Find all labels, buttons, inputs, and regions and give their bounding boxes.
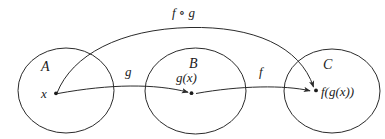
- function-composition-diagram: A B C x g(x) f(g(x)) g f f ∘ g: [0, 0, 385, 139]
- set-label-b: B: [189, 57, 198, 71]
- map-label-f-compose-g: f ∘ g: [172, 6, 195, 19]
- element-dot-x: [54, 91, 58, 95]
- element-label-x: x: [41, 87, 47, 100]
- set-label-a: A: [41, 60, 50, 74]
- map-label-f: f: [259, 65, 263, 78]
- map-arrow-f: [196, 87, 310, 94]
- element-label-fgx: f(g(x)): [321, 85, 354, 98]
- element-dot-gx: [190, 91, 194, 95]
- set-label-c: C: [323, 58, 332, 72]
- element-label-gx: g(x): [176, 71, 197, 84]
- map-label-g: g: [125, 65, 132, 78]
- set-circle-a: [18, 48, 114, 133]
- map-arrow-g: [58, 86, 188, 93]
- element-dot-fgx: [314, 89, 318, 93]
